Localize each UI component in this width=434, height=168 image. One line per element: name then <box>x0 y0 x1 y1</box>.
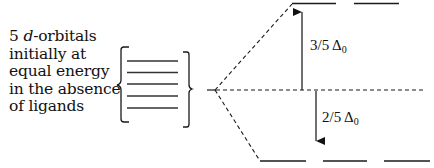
upper-splitting-label: 3/5 Δ0 <box>310 37 347 55</box>
energy-level-graphic <box>0 0 434 168</box>
splitting-lines <box>215 4 426 161</box>
degenerate-orbitals <box>127 61 178 108</box>
crystal-field-splitting-diagram: 5 d-orbitals initially at equal energy i… <box>0 0 434 168</box>
lower-splitting-label: 2/5 Δ0 <box>322 109 359 127</box>
right-brace <box>183 52 192 127</box>
